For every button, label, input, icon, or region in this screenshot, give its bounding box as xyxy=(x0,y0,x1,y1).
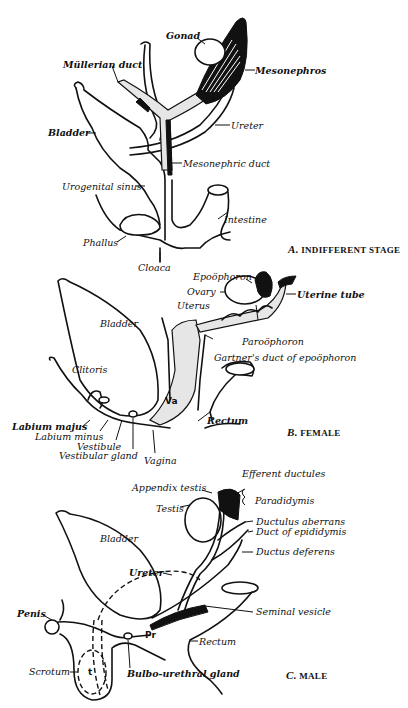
inner-label-t: t xyxy=(88,667,92,677)
label-cloaca: Cloaca xyxy=(138,262,171,273)
label-mesonephric-duct: Mesonephric duct xyxy=(183,158,270,169)
inner-label-pr: Pr xyxy=(145,630,156,640)
label-paroophoron: Paroöphoron xyxy=(242,336,304,347)
label-scrotum: Scrotum xyxy=(29,666,70,677)
label-intestine: Intestine xyxy=(224,214,267,225)
label-ureter-a: Ureter xyxy=(231,120,263,131)
inner-label-va: Va xyxy=(165,396,178,406)
caption-b-text: FEMALE xyxy=(300,428,340,438)
label-clitoris: Clitoris xyxy=(72,364,107,375)
label-gartners-duct: Gartner's duct of epoöphoron xyxy=(214,352,356,363)
label-bladder-c: Bladder xyxy=(100,533,138,544)
embryology-figure: Gonad Müllerian duct Mesonephros Bladder… xyxy=(0,0,408,708)
label-ductus-deferens: Ductus deferens xyxy=(256,546,335,557)
label-uterine-tube: Uterine tube xyxy=(297,289,365,300)
caption-a: A. INDIFFERENT STAGE xyxy=(288,243,400,255)
caption-a-text: INDIFFERENT STAGE xyxy=(301,245,400,255)
label-mesonephros: Mesonephros xyxy=(255,65,326,76)
label-phallus: Phallus xyxy=(83,237,118,248)
caption-b: B. FEMALE xyxy=(287,426,341,438)
panel-a-drawing xyxy=(74,18,247,262)
label-seminal-vesicle: Seminal vesicle xyxy=(256,606,331,617)
label-bladder-a: Bladder xyxy=(48,127,90,138)
label-ureter-c: Ureter xyxy=(129,567,164,578)
label-epoophoron: Epoöphoron xyxy=(193,271,252,282)
label-bladder-b: Bladder xyxy=(100,318,138,329)
caption-c-text: MALE xyxy=(299,671,327,681)
label-uterus: Uterus xyxy=(177,300,210,311)
label-efferent-ductules: Efferent ductules xyxy=(242,468,325,479)
label-gonad: Gonad xyxy=(166,30,200,41)
caption-c-letter: C. xyxy=(286,669,297,681)
label-vestibular-gland: Vestibular gland xyxy=(59,450,138,461)
label-appendix-testis: Appendix testis xyxy=(132,482,206,493)
label-ovary: Ovary xyxy=(187,286,216,297)
caption-c: C. MALE xyxy=(286,669,327,681)
label-mullerian-duct: Müllerian duct xyxy=(63,59,142,70)
label-testis: Testis xyxy=(156,503,184,514)
label-rectum-c: Rectum xyxy=(199,636,236,647)
label-urogenital-sinus: Urogenital sinus xyxy=(62,181,142,192)
label-penis: Penis xyxy=(17,608,46,619)
label-bulbo-urethral-gland: Bulbo-urethral gland xyxy=(127,668,240,679)
caption-b-letter: B. xyxy=(287,426,298,438)
label-duct-of-epididymis: Duct of epididymis xyxy=(256,526,346,537)
caption-a-letter: A. xyxy=(288,243,299,255)
label-vagina: Vagina xyxy=(144,455,177,466)
label-rectum-b: Rectum xyxy=(207,415,248,426)
label-paradidymis: Paradidymis xyxy=(255,495,314,506)
